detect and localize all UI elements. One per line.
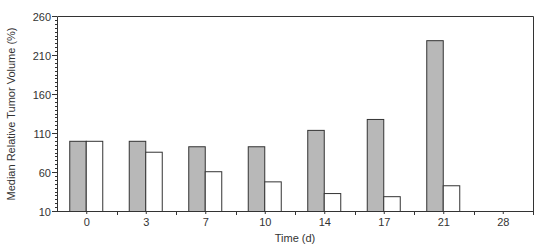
y-tick-label: 10 [39,206,51,218]
bar [427,41,444,212]
bar [367,119,384,211]
bar [324,194,341,212]
x-tick-label: 28 [497,216,509,228]
x-tick-label: 0 [84,216,90,228]
bar [129,141,146,211]
bar [86,141,103,211]
plot-area: 10601101602102600371014172128 [33,11,534,229]
bar [384,197,401,212]
x-tick-label: 3 [143,216,149,228]
x-tick-label: 7 [203,216,209,228]
y-tick-label: 210 [33,50,51,62]
bar [70,141,87,211]
bar-chart: 10601101602102600371014172128 Median Rel… [0,0,540,247]
bar [443,186,460,212]
bar [205,172,222,212]
y-tick-label: 110 [33,128,51,140]
y-axis-title: Median Relative Tumor Volume (%) [5,27,17,200]
x-axis-title: Time (d) [275,232,316,244]
bar [248,147,265,212]
x-tick-label: 10 [259,216,271,228]
bar [265,182,282,212]
x-tick-label: 17 [378,216,390,228]
y-tick-label: 260 [33,11,51,23]
bar [308,130,325,211]
y-tick-label: 60 [39,167,51,179]
y-tick-label: 160 [33,89,51,101]
bar [189,147,206,212]
x-tick-label: 14 [319,216,331,228]
bar [146,152,163,211]
x-tick-label: 21 [438,216,450,228]
